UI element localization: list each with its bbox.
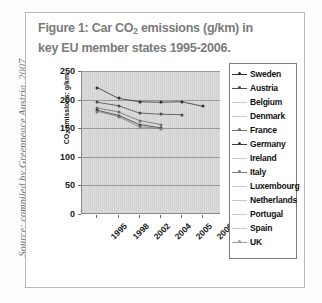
legend-swatch-icon <box>232 153 247 163</box>
data-point-sweden <box>181 100 184 103</box>
legend-item-uk[interactable]: UK <box>232 235 294 249</box>
legend-swatch-icon <box>232 69 247 79</box>
legend-label: Austria <box>250 83 278 93</box>
series-line-germany <box>97 110 160 128</box>
data-point-italy <box>117 115 120 118</box>
series-lines <box>82 71 220 213</box>
y-tick-label: 200 <box>36 95 75 105</box>
data-point-austria <box>96 101 99 104</box>
legend-label: Sweden <box>250 69 281 79</box>
legend-swatch-icon <box>232 167 247 177</box>
legend-label: UK <box>250 237 262 247</box>
data-point-austria <box>159 113 162 116</box>
y-tick-label: 250 <box>36 66 75 76</box>
x-tick-label: 1998 <box>130 221 150 241</box>
chart-area: CO2 emissions: g/km 050100150200250 1995… <box>36 61 298 279</box>
legend-label: Spain <box>250 223 272 233</box>
x-tick-label: 2005 <box>194 221 214 241</box>
data-point-italy <box>96 110 99 113</box>
legend-swatch-icon <box>232 111 247 121</box>
x-tick-mark <box>160 215 161 218</box>
y-tick-label: 50 <box>36 180 75 190</box>
legend-label: Denmark <box>250 111 285 121</box>
x-tick-label: 2002 <box>151 221 171 241</box>
legend-label: Luxembourg <box>250 181 299 191</box>
x-tick-mark <box>96 215 97 218</box>
data-point-sweden <box>202 105 205 108</box>
legend-item-italy[interactable]: Italy <box>232 165 294 179</box>
figure-title-line2: member states 1995-2006. <box>81 40 230 55</box>
legend-item-luxembourg[interactable]: Luxembourg <box>232 179 294 193</box>
x-tick-label: 2004 <box>172 221 192 241</box>
x-tick-mark <box>139 215 140 218</box>
series-line-sweden <box>97 87 202 106</box>
legend-swatch-icon <box>232 97 247 107</box>
y-axis-title: CO2 emissions: g/km <box>63 64 71 154</box>
legend-item-spain[interactable]: Spain <box>232 221 294 235</box>
x-tick-mark <box>118 215 119 218</box>
legend-label: Netherlands <box>250 195 297 205</box>
figure-frame: Figure 1: Car CO2 emissions (g/km) in ke… <box>25 12 305 288</box>
data-point-austria <box>138 112 141 115</box>
figure-title: Figure 1: Car CO2 emissions (g/km) in ke… <box>38 20 276 55</box>
data-point-sweden <box>117 97 120 100</box>
figure-page: Source: compiled by Greenpeace Austria, … <box>0 0 322 303</box>
legend-swatch-icon <box>232 237 247 247</box>
data-point-austria <box>181 114 184 117</box>
legend-item-netherlands[interactable]: Netherlands <box>232 193 294 207</box>
data-point-france <box>138 119 141 122</box>
x-tick-mark <box>202 215 203 218</box>
legend-item-sweden[interactable]: Sweden <box>232 67 294 81</box>
y-tick-mark <box>78 214 81 215</box>
legend-swatch-icon <box>232 195 247 205</box>
y-axis-title-prefix: CO <box>63 134 70 145</box>
data-point-sweden <box>159 101 162 104</box>
legend-item-portugal[interactable]: Portugal <box>232 207 294 221</box>
plot-canvas <box>81 71 220 214</box>
legend-item-austria[interactable]: Austria <box>232 81 294 95</box>
legend-item-belgium[interactable]: Belgium <box>232 95 294 109</box>
legend-label: Italy <box>250 167 266 177</box>
legend-item-ireland[interactable]: Ireland <box>232 151 294 165</box>
legend-label: Germany <box>250 139 285 149</box>
legend-item-germany[interactable]: Germany <box>232 137 294 151</box>
legend-swatch-icon <box>232 83 247 93</box>
legend-label: Portugal <box>250 209 283 219</box>
legend-label: Belgium <box>250 97 282 107</box>
data-point-austria <box>117 104 120 107</box>
data-point-italy <box>138 126 141 129</box>
x-tick-label: 1995 <box>109 221 129 241</box>
data-point-sweden <box>96 86 99 89</box>
chart-legend: SwedenAustriaBelgiumDenmarkFranceGermany… <box>229 63 297 259</box>
legend-item-denmark[interactable]: Denmark <box>232 109 294 123</box>
legend-item-france[interactable]: France <box>232 123 294 137</box>
data-point-sweden <box>138 100 141 103</box>
x-tick-mark <box>181 215 182 218</box>
data-point-italy <box>159 127 162 130</box>
legend-swatch-icon <box>232 139 247 149</box>
legend-swatch-icon <box>232 223 247 233</box>
y-tick-label: 0 <box>36 209 75 219</box>
y-tick-label: 100 <box>36 152 75 162</box>
legend-swatch-icon <box>232 125 247 135</box>
legend-label: Ireland <box>250 153 276 163</box>
legend-label: France <box>250 125 277 135</box>
figure-title-part1: Figure 1: Car CO <box>38 20 133 35</box>
y-tick-label: 150 <box>36 123 75 133</box>
legend-swatch-icon <box>232 209 247 219</box>
legend-swatch-icon <box>232 181 247 191</box>
